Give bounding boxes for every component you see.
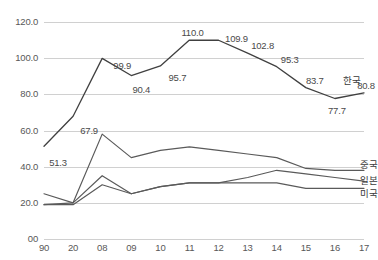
x-tick-label: 09: [116, 242, 146, 253]
data-point-label: 95.7: [169, 71, 187, 82]
y-tick-label: 20.0: [0, 197, 38, 208]
x-tick-label: 10: [145, 242, 175, 253]
data-point-label: 109.9: [225, 33, 248, 44]
data-point-label: 110.0: [181, 27, 203, 38]
x-tick-label: 15: [291, 242, 321, 253]
data-point-label: 67.9: [80, 125, 98, 136]
y-axis: 0020.040.060.080.0100.0120.0: [0, 22, 40, 239]
series-label-중국: 중국: [360, 157, 377, 171]
data-point-label: 77.7: [328, 104, 346, 115]
y-tick-label: 100.0: [0, 52, 38, 63]
data-point-label: 99.9: [113, 60, 131, 71]
y-tick-label: 80.0: [0, 88, 38, 99]
series-line-3: [44, 183, 364, 205]
y-tick-label: 60.0: [0, 125, 38, 136]
x-tick-label: 08: [87, 242, 117, 253]
x-tick-label: 12: [204, 242, 234, 253]
x-tick-label: 17: [349, 242, 378, 253]
series-label-미국: 미국: [360, 186, 377, 200]
data-point-label: 102.8: [251, 40, 274, 51]
series-label-한국: 한국: [343, 73, 360, 87]
x-axis: 902008091011121314151617: [44, 242, 364, 258]
x-tick-label: 11: [175, 242, 205, 253]
data-point-label: 95.3: [281, 53, 299, 64]
plot-area: 51.367.999.990.495.7110.0109.9102.895.38…: [44, 22, 364, 239]
gridline-00: [44, 239, 364, 240]
y-tick-label: 40.0: [0, 161, 38, 172]
series-line-2: [44, 170, 364, 204]
x-tick-label: 13: [233, 242, 263, 253]
x-tick-label: 14: [262, 242, 292, 253]
line-chart: 0020.040.060.080.0100.0120.0 51.367.999.…: [0, 0, 378, 260]
data-point-label: 90.4: [132, 83, 150, 94]
series-line-1: [44, 134, 364, 203]
data-point-label: 51.3: [49, 157, 67, 168]
y-tick-label: 120.0: [0, 16, 38, 27]
x-tick-label: 90: [29, 242, 59, 253]
x-tick-label: 20: [58, 242, 88, 253]
x-tick-label: 16: [320, 242, 350, 253]
data-point-label: 83.7: [306, 74, 324, 85]
